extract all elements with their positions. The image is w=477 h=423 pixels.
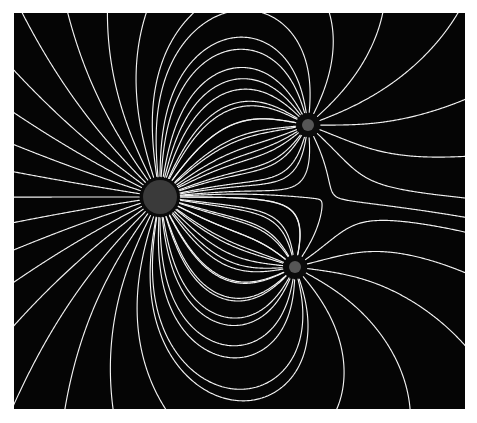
- field-line: [176, 132, 297, 187]
- field-line: [19, 13, 146, 182]
- field-line: [320, 130, 465, 157]
- field-line: [320, 13, 462, 120]
- field-line: [168, 101, 297, 179]
- field-line: [14, 63, 143, 185]
- field-plot-area: [14, 13, 465, 409]
- field-line: [110, 216, 150, 409]
- field-line: [160, 218, 293, 346]
- field-line: [14, 200, 139, 224]
- field-line: [169, 216, 284, 284]
- field-line: [303, 277, 344, 409]
- field-line-figure: [0, 0, 477, 423]
- field-line: [305, 220, 465, 259]
- field-line: [64, 214, 148, 409]
- small-negative-charge-top-right: [296, 113, 320, 137]
- field-line: [14, 171, 139, 194]
- charge-core: [289, 261, 301, 273]
- field-line: [317, 134, 465, 199]
- field-line: [308, 269, 465, 353]
- field-line: [66, 13, 148, 180]
- charge-core: [302, 119, 314, 131]
- field-line: [152, 13, 201, 176]
- field-lines-group: [14, 13, 465, 409]
- small-negative-charge-bottom: [283, 255, 307, 279]
- field-line: [172, 214, 284, 272]
- field-line: [314, 136, 465, 218]
- field-line: [318, 13, 384, 116]
- field-line: [314, 13, 333, 114]
- charge-core: [143, 180, 177, 214]
- field-line-canvas: [14, 13, 465, 409]
- field-line: [179, 202, 289, 255]
- field-line: [306, 273, 410, 409]
- field-line: [181, 137, 307, 194]
- field-line: [14, 209, 143, 332]
- large-positive-charge: [140, 177, 180, 217]
